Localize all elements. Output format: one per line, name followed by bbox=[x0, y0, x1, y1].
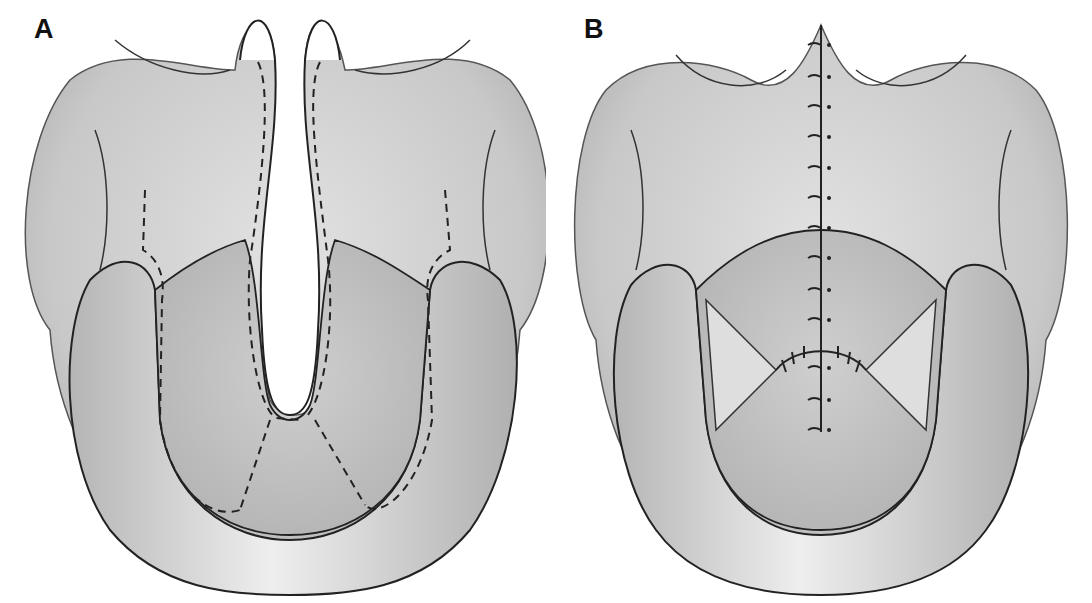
repaired-palate-illustration bbox=[546, 0, 1092, 603]
panel-label-a: A bbox=[34, 14, 54, 45]
panel-a: A bbox=[0, 0, 546, 603]
panel-label-b: B bbox=[584, 14, 604, 45]
panel-b: B bbox=[546, 0, 1092, 603]
cleft-palate-illustration bbox=[0, 0, 546, 603]
